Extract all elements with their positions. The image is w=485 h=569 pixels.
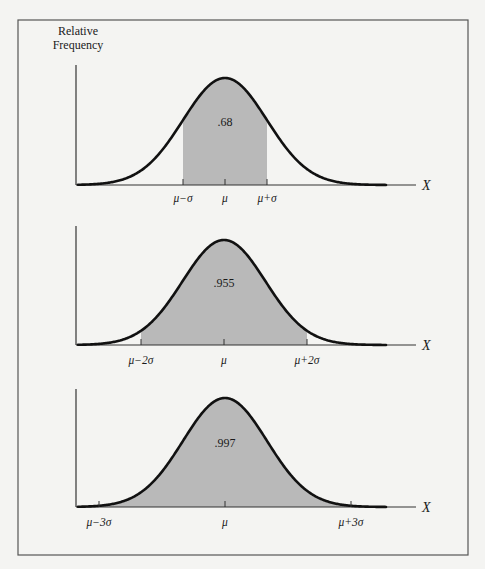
normal-distribution-figure: Relative Frequency μ−σμμ+σ.68X μ−2σμμ+2σ… (0, 0, 485, 569)
panel-three-sigma: μ−3σμμ+3σ.997X (76, 389, 431, 529)
tick-label: μ−3σ (86, 516, 113, 529)
tick-label: μ (220, 354, 227, 367)
shaded-area (141, 240, 307, 345)
tick-label: μ (221, 516, 228, 529)
tick-label: μ (221, 192, 228, 205)
tick-label: μ−σ (172, 192, 194, 205)
area-value-label: .68 (218, 115, 233, 129)
tick-label: μ+σ (256, 192, 278, 205)
panel-one-sigma: μ−σμμ+σ.68X (76, 65, 431, 205)
x-axis-label: X (421, 178, 431, 193)
y-axis-label-line1: Relative (58, 24, 98, 38)
tick-label: μ+3σ (338, 516, 365, 529)
shaded-area (183, 78, 267, 185)
tick-label: μ+2σ (294, 354, 321, 367)
shaded-area (99, 398, 351, 507)
y-axis-label-line2: Frequency (53, 38, 104, 52)
x-axis-label: X (421, 500, 431, 515)
area-value-label: .997 (215, 436, 236, 450)
x-axis-label: X (421, 338, 431, 353)
tick-label: μ−2σ (128, 354, 155, 367)
area-value-label: .955 (214, 276, 235, 290)
panel-two-sigma: μ−2σμμ+2σ.955X (76, 226, 431, 367)
